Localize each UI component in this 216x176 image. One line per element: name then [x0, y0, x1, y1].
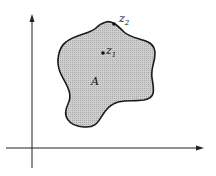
diagram-canvas: z1 z2 A: [0, 0, 216, 176]
x-axis-arrow-icon: [196, 146, 204, 151]
point-z1: [101, 51, 105, 55]
y-axis-arrow-icon: [30, 14, 35, 22]
region-a: [58, 22, 155, 127]
point-z2: [112, 22, 116, 26]
label-region-a: A: [90, 75, 99, 88]
label-z2: z2: [118, 12, 130, 27]
